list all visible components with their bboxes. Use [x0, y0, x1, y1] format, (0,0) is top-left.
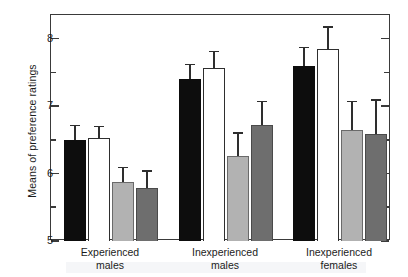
category-label-line-1: Inexperienced [192, 246, 258, 258]
error-bar-stem [98, 126, 99, 139]
error-bar-cap [257, 101, 267, 102]
y-axis-title: Means of preference ratings [26, 36, 38, 226]
y-axis-tick-left-5-5 [51, 206, 56, 208]
bar [317, 49, 339, 241]
y-axis-tick-label: 5 [13, 234, 53, 246]
x-axis-category-label: Inexperiencedmales [165, 246, 285, 272]
x-axis-category-label: Inexperiencedfemales [279, 246, 399, 272]
error-bar-cap [233, 132, 243, 133]
y-axis-tick-label: 7 [13, 99, 53, 111]
bar [64, 140, 86, 241]
bar [136, 188, 158, 241]
bar [227, 156, 249, 241]
bar [203, 68, 225, 241]
y-axis-tick-left-7-5 [51, 72, 56, 74]
category-label-line-2: males [50, 259, 170, 272]
error-bar-cap [185, 64, 195, 65]
error-bar-cap [142, 170, 152, 171]
y-axis-tick-right-7-5 [384, 72, 389, 74]
error-bar-cap [118, 167, 128, 168]
category-label-line-1: Inexperienced [306, 246, 372, 258]
bar [365, 134, 387, 241]
bar [179, 79, 201, 241]
y-axis-tick-right-7 [381, 105, 389, 107]
plot-area [50, 14, 390, 240]
error-bar-cap [347, 101, 357, 102]
y-axis-tick-label: 6 [13, 167, 53, 179]
error-bar-cap [371, 99, 381, 100]
error-bar-cap [299, 47, 309, 48]
y-axis-tick-label: 8 [13, 32, 53, 44]
error-bar-cap [70, 125, 80, 126]
bar [251, 125, 273, 241]
bar-chart: Means of preference ratings 5678 Experie… [0, 0, 408, 277]
error-bar-stem [327, 26, 328, 48]
error-bar-cap [94, 126, 104, 127]
error-bar-stem [189, 64, 190, 80]
y-axis-tick-left-6-5 [51, 139, 56, 141]
error-bar-stem [375, 99, 376, 134]
y-axis-tick-right-8 [381, 38, 389, 40]
error-bar-stem [237, 132, 238, 156]
bar [88, 138, 110, 241]
error-bar-stem [213, 51, 214, 68]
bar [112, 182, 134, 241]
error-bar-stem [261, 101, 262, 125]
plot-inner [51, 15, 389, 239]
category-label-line-2: males [165, 259, 285, 272]
error-bar-stem [74, 125, 75, 140]
error-bar-stem [146, 170, 147, 188]
error-bar-stem [122, 167, 123, 183]
bar [293, 66, 315, 241]
error-bar-stem [303, 47, 304, 66]
category-label-line-1: Experienced [81, 246, 139, 258]
error-bar-stem [351, 101, 352, 130]
category-label-line-2: females [279, 259, 399, 272]
error-bar-cap [323, 26, 333, 27]
x-axis-category-label: Experiencedmales [50, 246, 170, 272]
error-bar-cap [209, 51, 219, 52]
bar [341, 130, 363, 241]
